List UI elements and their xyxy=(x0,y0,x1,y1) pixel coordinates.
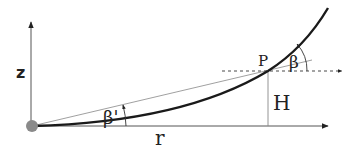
height-label: H xyxy=(273,91,290,115)
beta-prime-label: β' xyxy=(103,107,118,128)
origin-marker xyxy=(26,120,38,132)
r-axis-label: r xyxy=(155,126,165,150)
z-axis-label: z xyxy=(16,63,25,82)
point-label: P xyxy=(258,52,268,70)
beta-label: β xyxy=(289,52,299,72)
angle-arc-beta-prime xyxy=(123,105,126,126)
trajectory-diagram: z r P H β β' xyxy=(0,0,356,153)
